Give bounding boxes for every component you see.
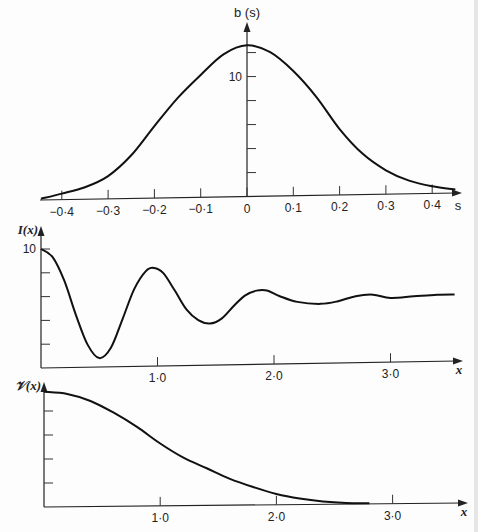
chart-i-of-x: 1·02·03·010xI(x) — [17, 222, 463, 385]
x-axis-arrow-icon — [452, 190, 462, 197]
x-tick-label: 3·0 — [382, 367, 400, 381]
x-axis-label: x — [460, 504, 468, 519]
figure: −0·4−0·3−0·2−0·100·10·20·30·410sb (s) 1·… — [0, 0, 478, 532]
figure-canvas: −0·4−0·3−0·2−0·100·10·20·30·410sb (s) 1·… — [0, 0, 478, 532]
data-curve — [41, 249, 455, 358]
data-curve — [44, 392, 369, 503]
y-axis-arrow-icon — [244, 22, 251, 32]
y-axis-label: 𝒱(x) — [15, 378, 41, 393]
x-tick-label: −0·1 — [189, 202, 214, 216]
y-axis-arrow-icon — [38, 226, 45, 236]
x-axis — [44, 503, 462, 507]
x-tick-label: −0·4 — [50, 205, 75, 219]
y-axis-arrow-icon — [41, 382, 48, 392]
y-axis-label: b (s) — [234, 5, 260, 20]
page-edge — [474, 0, 478, 532]
x-axis-label: x — [455, 362, 463, 377]
y-tick-label: 10 — [23, 242, 37, 256]
data-curve — [41, 45, 455, 198]
x-tick-label: −0·3 — [96, 204, 121, 218]
chart-b-of-s: −0·4−0·3−0·2−0·100·10·20·30·410sb (s) — [40, 5, 462, 219]
chart-v-of-x: 1·02·03·0x𝒱(x) — [15, 378, 468, 525]
x-tick-label: 0 — [244, 202, 251, 216]
x-tick-label: 1·0 — [149, 371, 167, 385]
x-tick-label: 3·0 — [384, 509, 402, 523]
x-tick-label: 2·0 — [268, 510, 286, 524]
x-tick-label: 0·3 — [377, 199, 395, 213]
x-axis-label: s — [455, 198, 462, 213]
x-tick-label: 0·1 — [285, 201, 303, 215]
x-tick-label: 2·0 — [265, 369, 283, 383]
x-tick-label: 0·4 — [424, 198, 442, 212]
y-tick-label: 10 — [229, 70, 243, 84]
y-axis-label: I(x) — [17, 222, 38, 237]
x-tick-label: 0·2 — [331, 200, 349, 214]
x-tick-label: 1·0 — [152, 511, 170, 525]
x-tick-label: −0·2 — [142, 203, 167, 217]
